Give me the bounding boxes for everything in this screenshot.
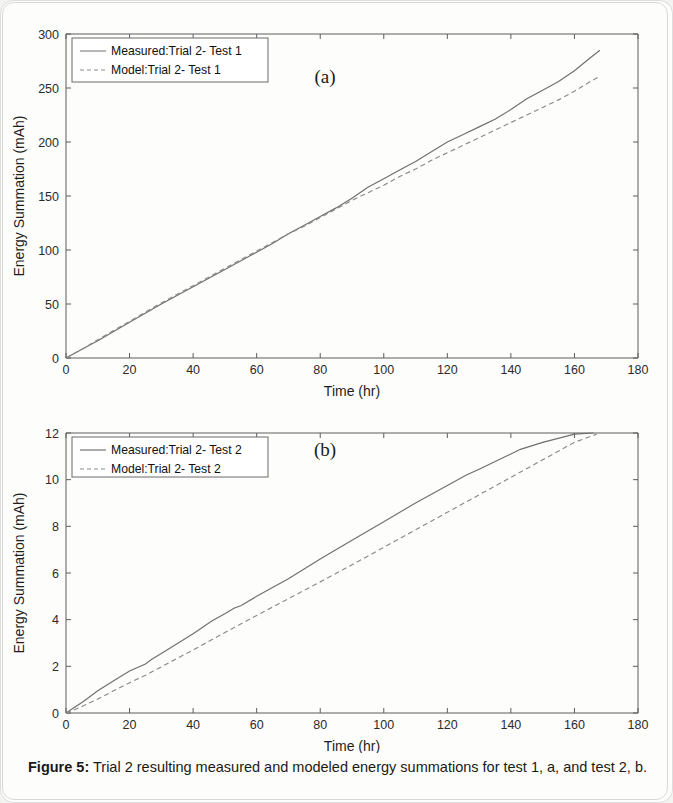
x-tick-label: 140 (500, 363, 521, 377)
x-tick-label: 180 (628, 718, 649, 732)
y-tick-label: 300 (38, 28, 59, 42)
chart-a-canvas: 0204060801001201401601800501001502002503… (0, 0, 673, 400)
x-tick-label: 100 (373, 363, 394, 377)
y-tick-label: 0 (52, 352, 59, 366)
chart-b-canvas: 020406080100120140160180024681012Time (h… (0, 398, 673, 753)
y-tick-label: 6 (52, 567, 59, 581)
y-tick-label: 2 (52, 660, 59, 674)
y-tick-label: 10 (45, 473, 59, 487)
y-tick-label: 8 (52, 520, 59, 534)
scanned-page: 0204060801001201401601800501001502002503… (0, 0, 673, 803)
x-tick-label: 20 (123, 718, 137, 732)
x-tick-label: 80 (313, 363, 327, 377)
y-axis-title: Energy Summation (mAh) (11, 115, 27, 276)
y-axis-title: Energy Summation (mAh) (11, 492, 27, 653)
x-tick-label: 20 (123, 363, 137, 377)
y-tick-label: 100 (38, 244, 59, 258)
x-tick-label: 0 (63, 718, 70, 732)
x-tick-label: 120 (437, 363, 458, 377)
x-tick-label: 40 (186, 363, 200, 377)
y-tick-label: 250 (38, 82, 59, 96)
figure-caption: Figure 5: Trial 2 resulting measured and… (28, 757, 653, 779)
series-line-model (66, 76, 600, 358)
x-axis-title: Time (hr) (324, 738, 380, 753)
y-tick-label: 150 (38, 190, 59, 204)
legend-label: Measured:Trial 2- Test 2 (111, 443, 242, 457)
y-tick-label: 4 (52, 613, 59, 627)
x-tick-label: 40 (186, 718, 200, 732)
x-axis-title: Time (hr) (324, 383, 380, 399)
x-tick-label: 160 (564, 363, 585, 377)
x-tick-label: 60 (250, 363, 264, 377)
panel-label: (b) (314, 439, 336, 461)
legend-label: Model:Trial 2- Test 1 (111, 63, 221, 77)
x-tick-label: 80 (313, 718, 327, 732)
y-tick-label: 200 (38, 136, 59, 150)
figure-caption-label: Figure 5: (28, 759, 89, 775)
legend-label: Measured:Trial 2- Test 1 (111, 44, 242, 58)
x-tick-label: 160 (564, 718, 585, 732)
x-tick-label: 120 (437, 718, 458, 732)
x-tick-label: 140 (500, 718, 521, 732)
chart-panel-b: 020406080100120140160180024681012Time (h… (0, 398, 673, 753)
x-tick-label: 180 (628, 363, 649, 377)
y-tick-label: 12 (45, 427, 59, 441)
figure-5: 0204060801001201401601800501001502002503… (0, 0, 673, 803)
chart-panel-a: 0204060801001201401601800501001502002503… (0, 0, 673, 400)
x-tick-label: 100 (373, 718, 394, 732)
y-tick-label: 50 (45, 298, 59, 312)
y-tick-label: 0 (52, 707, 59, 721)
x-tick-label: 0 (63, 363, 70, 377)
figure-caption-text: Trial 2 resulting measured and modeled e… (89, 759, 647, 775)
panel-label: (a) (314, 66, 335, 88)
x-tick-label: 60 (250, 718, 264, 732)
legend-label: Model:Trial 2- Test 2 (111, 462, 221, 476)
